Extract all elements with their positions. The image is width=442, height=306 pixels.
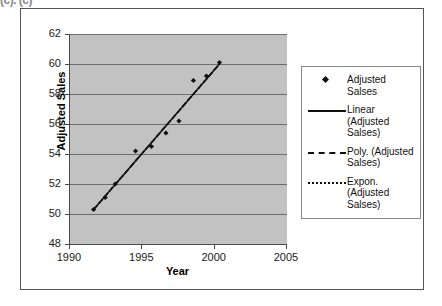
y-axis-tick-label: 62 <box>37 28 61 39</box>
legend-item[interactable]: Linear (Adjusted Salses) <box>302 104 420 139</box>
x-axis-tick-label: 2005 <box>264 252 308 263</box>
y-axis-tick-label: 52 <box>37 178 61 189</box>
y-axis-tick <box>65 64 69 65</box>
clipped-header-text: (c). (c) <box>0 0 60 7</box>
series-layer <box>69 34 287 245</box>
x-axis-tick-label: 1990 <box>47 252 91 263</box>
data-point-marker <box>217 60 222 65</box>
y-axis-tick <box>65 94 69 95</box>
y-axis-tick <box>65 124 69 125</box>
y-axis-tick <box>65 154 69 155</box>
x-axis-tick <box>214 245 215 249</box>
diamond-marker-icon <box>322 76 329 83</box>
solid-line-icon <box>308 110 346 112</box>
x-axis-tick <box>286 245 287 249</box>
x-axis-tick-label: 1995 <box>119 252 163 263</box>
x-axis-title: Year <box>69 265 286 277</box>
legend-item[interactable]: Poly. (Adjusted Salses) <box>302 146 420 169</box>
y-axis-tick-label: 58 <box>37 88 61 99</box>
y-axis-tick <box>65 34 69 35</box>
legend-label: Expon. (Adjusted Salses) <box>347 176 416 211</box>
y-axis-tick <box>65 184 69 185</box>
y-axis-tick-label: 54 <box>37 148 61 159</box>
legend-item[interactable]: Expon. (Adjusted Salses) <box>302 176 420 211</box>
legend-item[interactable]: Adjusted Salses <box>302 74 420 97</box>
x-axis-tick <box>69 245 70 249</box>
trendline-dotted <box>94 64 220 210</box>
chart-legend: Adjusted SalsesLinear (Adjusted Salses)P… <box>301 66 421 219</box>
data-point-marker <box>191 78 196 83</box>
data-point-marker <box>176 118 181 123</box>
data-point-marker <box>133 148 138 153</box>
y-axis-tick <box>65 214 69 215</box>
legend-label: Adjusted Salses <box>347 74 416 97</box>
chart-frame: Adjusted Sales Year Adjusted SalsesLinea… <box>20 8 424 290</box>
data-point-marker <box>163 130 168 135</box>
legend-label: Poly. (Adjusted Salses) <box>347 146 416 169</box>
dotted-line-icon <box>308 182 346 184</box>
legend-label: Linear (Adjusted Salses) <box>347 104 416 139</box>
legend-key-diamond-marker <box>307 74 347 86</box>
dashed-line-icon <box>308 152 346 154</box>
y-axis-tick-label: 56 <box>37 118 61 129</box>
y-axis-tick-label: 60 <box>37 58 61 69</box>
y-axis-tick-label: 48 <box>37 238 61 249</box>
legend-key-solid-line <box>307 104 347 116</box>
x-axis-tick <box>141 245 142 249</box>
x-axis-tick-label: 2000 <box>192 252 236 263</box>
y-axis-tick-label: 50 <box>37 208 61 219</box>
legend-key-dotted-line <box>307 176 347 188</box>
legend-key-dashed-line <box>307 146 347 158</box>
